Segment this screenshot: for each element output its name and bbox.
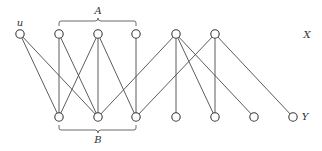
- vertex-x5: [172, 30, 180, 38]
- edge-a2-b3: [98, 34, 136, 117]
- vertex-b2: [94, 113, 102, 121]
- vertex-y5: [211, 113, 219, 121]
- vertex-x6: [211, 30, 219, 38]
- vertex-b3: [132, 113, 140, 121]
- nodes-layer: [16, 30, 297, 121]
- vertex-a3: [132, 30, 140, 38]
- vertex-a1: [55, 30, 63, 38]
- bipartite-graph-diagram: A B u X Y: [0, 0, 322, 151]
- edge-x6-y7: [215, 34, 293, 117]
- vertex-u: [16, 30, 24, 38]
- vertex-y4: [172, 113, 180, 121]
- vertex-y6: [250, 113, 258, 121]
- vertex-b1: [55, 113, 63, 121]
- label-part-y: Y: [302, 111, 310, 122]
- label-set-a: A: [93, 5, 101, 16]
- edges-layer: [20, 34, 293, 117]
- edge-x5-b2: [98, 34, 176, 117]
- vertex-a2: [94, 30, 102, 38]
- label-part-x: X: [302, 29, 311, 40]
- brace-set-a: [59, 18, 136, 26]
- label-set-b: B: [93, 134, 101, 145]
- edge-u-b1: [20, 34, 59, 117]
- label-vertex-u: u: [17, 17, 23, 28]
- vertex-y7: [289, 113, 297, 121]
- edge-x5-y5: [176, 34, 215, 117]
- brace-set-b: [59, 125, 136, 133]
- edge-x6-b3: [136, 34, 215, 117]
